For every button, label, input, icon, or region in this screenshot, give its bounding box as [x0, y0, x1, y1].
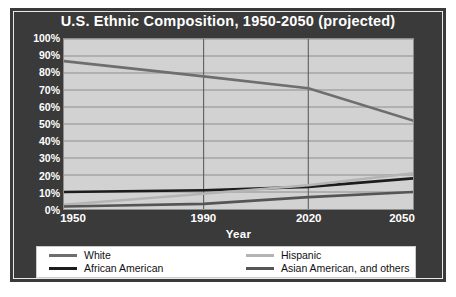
- y-axis-tick: 20%: [12, 170, 60, 182]
- y-axis-tick: 30%: [12, 152, 60, 164]
- legend-item[interactable]: Asian American, and others: [226, 263, 415, 274]
- x-axis-labels: 1950199020202050: [0, 212, 456, 228]
- y-axis-labels: 100%90%80%70%60%50%40%30%20%10%0%: [10, 30, 60, 218]
- legend-item[interactable]: White: [37, 250, 226, 261]
- series-line: [64, 192, 413, 206]
- bottom-caption-strip: [14, 288, 444, 297]
- y-axis-tick: 70%: [12, 84, 60, 96]
- y-axis-tick: 10%: [12, 187, 60, 199]
- chart-legend: WhiteHispanicAfrican AmericanAsian Ameri…: [36, 246, 416, 278]
- plot-svg: [64, 39, 413, 209]
- series-line: [64, 61, 413, 121]
- legend-swatch-icon: [49, 267, 77, 270]
- legend-item[interactable]: Hispanic: [226, 250, 415, 261]
- x-axis-tick: 2050: [389, 212, 415, 224]
- y-axis-tick: 100%: [12, 32, 60, 44]
- y-axis-tick: 90%: [12, 49, 60, 61]
- legend-label: African American: [84, 263, 163, 274]
- legend-label: Asian American, and others: [281, 263, 409, 274]
- plot-area: [63, 38, 414, 210]
- x-axis-tick: 2020: [296, 212, 322, 224]
- legend-label: Hispanic: [281, 250, 321, 261]
- y-axis-tick: 80%: [12, 66, 60, 78]
- chart-screenshot: U.S. Ethnic Composition, 1950-2050 (proj…: [0, 0, 456, 297]
- chart-title: U.S. Ethnic Composition, 1950-2050 (proj…: [10, 13, 446, 29]
- x-axis-title: Year: [63, 228, 414, 240]
- legend-label: White: [84, 250, 111, 261]
- y-axis-tick: 40%: [12, 135, 60, 147]
- legend-swatch-icon: [246, 267, 274, 270]
- x-axis-tick: 1950: [60, 212, 86, 224]
- legend-item[interactable]: African American: [37, 263, 226, 274]
- y-axis-tick: 60%: [12, 101, 60, 113]
- legend-swatch-icon: [49, 254, 77, 257]
- x-axis-tick: 1990: [191, 212, 217, 224]
- y-axis-tick: 50%: [12, 118, 60, 130]
- legend-swatch-icon: [246, 254, 274, 257]
